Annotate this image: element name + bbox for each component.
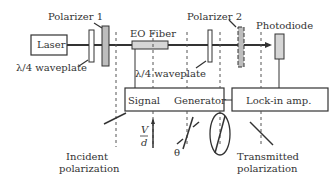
waveplate-1 [89, 30, 94, 62]
signal-generator-label-right: Generator [174, 95, 226, 106]
waveplate-2 [208, 30, 212, 62]
polarizer-2 [238, 27, 244, 67]
waveplate1-label: λ/4 waveplate [16, 62, 87, 73]
photodiode [275, 34, 284, 59]
laser-label: Laser [37, 39, 65, 50]
rotated-polarization-tick-1 [193, 122, 199, 127]
pointer-waveplate2 [196, 61, 206, 68]
incident-label-line1: Incident [66, 151, 108, 162]
transmitted-label-line1: Transmitted [237, 151, 299, 162]
incident-label-line2: polarization [59, 163, 119, 174]
field-denominator: d [141, 137, 147, 148]
polarizer2-label: Polarizer 2 [187, 11, 242, 22]
eo-fiber-label: EO Fiber [130, 28, 176, 39]
beam-arrowhead [265, 42, 272, 48]
angle-theta: θ [174, 147, 180, 158]
signal-generator-label-left: Signal [128, 95, 160, 106]
rotated-polarization-line [183, 117, 193, 149]
ellipse-major-axis [215, 116, 225, 153]
incident-polarization-arrow [104, 113, 126, 124]
photodiode-label: Photodiode [256, 20, 313, 31]
field-arrowhead [151, 118, 155, 124]
polarizer-1 [102, 26, 109, 66]
eo-fiber [132, 41, 168, 49]
lockin-label: Lock-in amp. [246, 95, 311, 106]
field-numerator: V [141, 124, 148, 135]
rotated-polarization-tick-2 [177, 139, 183, 144]
polarizer1-label: Polarizer 1 [48, 11, 103, 22]
waveplate2-label: λ/4 waveplate [135, 68, 206, 79]
transmitted-label-line2: polarization [237, 163, 297, 174]
pointer-polarizer1 [94, 23, 102, 28]
